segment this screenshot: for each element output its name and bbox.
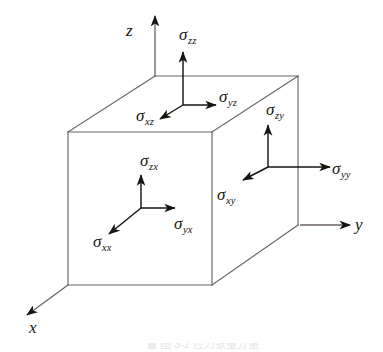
sigma-xx-subscript: xx (102, 242, 112, 253)
label-sigma-zz: σzz (179, 26, 196, 43)
sigma-zx-subscript: zx (149, 161, 158, 172)
label-sigma-zx: σzx (140, 152, 158, 169)
sigma-xz-subscript: xz (145, 116, 154, 127)
coordinate-axes (27, 16, 350, 315)
caption-label: 图 3-2 应力张量分量 (160, 343, 259, 350)
sigma-glyph: σ (217, 185, 225, 204)
label-sigma-yx: σyx (174, 215, 192, 232)
sigma-glyph: σ (266, 100, 274, 119)
cube-edges (68, 76, 298, 285)
label-sigma-xz: σxz (136, 107, 154, 124)
sigma-yy-subscript: yy (341, 169, 351, 180)
sigma-glyph: σ (93, 232, 101, 251)
sigma-glyph: σ (140, 151, 148, 170)
sigma-glyph: σ (332, 159, 340, 178)
axis-x-line (27, 285, 68, 315)
sigma-xz-arrow (160, 105, 183, 119)
sigma-zz-subscript: zz (188, 35, 197, 46)
sigma-xx-arrow (109, 208, 141, 234)
right-face-stress-triad (243, 125, 330, 180)
caption-marker-icon (148, 343, 156, 349)
label-sigma-zy: σzy (266, 101, 284, 118)
axis-label-z: z (126, 22, 133, 39)
figure-caption-strip: 图 3-2 应力张量分量 (0, 343, 383, 352)
sigma-xy-arrow (243, 167, 268, 180)
sigma-yz-subscript: yz (228, 97, 237, 108)
label-sigma-xx: σxx (93, 233, 111, 250)
sigma-glyph: σ (219, 87, 227, 106)
front-face-stress-triad (109, 175, 175, 234)
sigma-yx-subscript: yx (183, 224, 193, 235)
cube-and-arrows-svg (0, 0, 383, 352)
label-sigma-xy: σxy (217, 186, 235, 203)
stress-tensor-figure: z y x σzz σyz σxz σzx σyx σxx σzy σyy σx… (0, 0, 383, 352)
sigma-glyph: σ (174, 214, 182, 233)
label-sigma-yz: σyz (219, 88, 237, 105)
axis-label-y: y (355, 216, 363, 233)
sigma-glyph: σ (179, 25, 187, 44)
cube-edge-right-bottom-diag (212, 225, 298, 285)
label-sigma-yy: σyy (332, 160, 350, 177)
sigma-xy-subscript: xy (226, 195, 236, 206)
top-face-stress-triad (160, 52, 216, 119)
figure-caption: 图 3-2 应力张量分量 (148, 343, 259, 351)
sigma-glyph: σ (136, 106, 144, 125)
axis-label-x: x (29, 319, 37, 336)
sigma-zy-subscript: zy (275, 110, 284, 121)
